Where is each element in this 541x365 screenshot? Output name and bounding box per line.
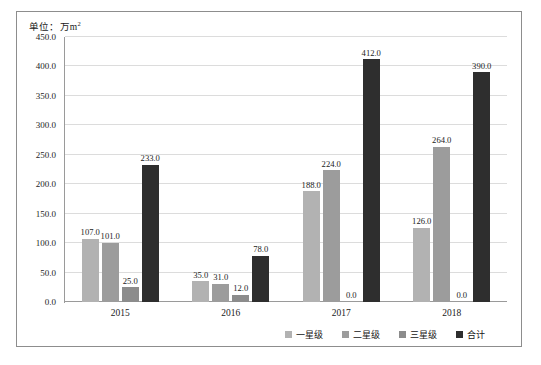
y-axis-tick-labels: 450.0400.0350.0300.0250.0200.0150.0100.0… xyxy=(17,37,61,302)
bar-value-label: 101.0 xyxy=(101,232,120,241)
y-axis-tick-label: 100.0 xyxy=(36,238,56,248)
y-axis-tick-label: 150.0 xyxy=(36,209,56,219)
bar-value-label: 107.0 xyxy=(81,228,100,237)
bar-slot: 0.0 xyxy=(343,37,360,302)
bar-slot: 390.0 xyxy=(473,37,490,302)
bar-value-label: 35.0 xyxy=(193,271,208,280)
bar[interactable] xyxy=(142,165,159,302)
x-axis-tick-label: 2018 xyxy=(397,308,508,318)
y-axis-tick-label: 300.0 xyxy=(36,120,56,130)
x-axis-tick-label: 2015 xyxy=(65,308,176,318)
bar[interactable] xyxy=(303,191,320,302)
bar-value-label: 224.0 xyxy=(322,160,341,169)
bar[interactable] xyxy=(433,147,450,302)
bar[interactable] xyxy=(212,284,229,302)
bar[interactable] xyxy=(252,256,269,302)
bar-value-label: 233.0 xyxy=(141,154,160,163)
bar-group: 126.0264.00.0390.0 xyxy=(397,37,508,302)
legend-label: 三星级 xyxy=(410,328,437,341)
x-axis-tick-label: 2017 xyxy=(286,308,397,318)
y-axis-tick-label: 450.0 xyxy=(36,32,56,42)
bar-slot: 12.0 xyxy=(232,37,249,302)
bar-slot: 188.0 xyxy=(303,37,320,302)
y-axis-tick-label: 250.0 xyxy=(36,150,56,160)
bar-value-label: 12.0 xyxy=(233,284,248,293)
bar[interactable] xyxy=(82,239,99,302)
legend-item[interactable]: 三星级 xyxy=(399,328,437,341)
x-axis-tick-label: 2016 xyxy=(176,308,287,318)
bar-slot: 264.0 xyxy=(433,37,450,302)
legend-label: 一星级 xyxy=(296,328,323,341)
bar[interactable] xyxy=(323,170,340,302)
bar-group-bars: 107.0101.025.0233.0 xyxy=(65,37,176,302)
bar-group-bars: 35.031.012.078.0 xyxy=(176,37,287,302)
y-axis-unit-text: 单位：万m xyxy=(29,22,77,32)
bar-group: 107.0101.025.0233.0 xyxy=(65,37,176,302)
bar-group-bars: 126.0264.00.0390.0 xyxy=(397,37,508,302)
bar-value-label: 264.0 xyxy=(432,136,451,145)
bar[interactable] xyxy=(232,295,249,302)
bar-slot: 31.0 xyxy=(212,37,229,302)
y-axis-tick-label: 200.0 xyxy=(36,179,56,189)
bar[interactable] xyxy=(102,243,119,302)
chart-legend: 一星级二星级三星级合计 xyxy=(17,328,507,341)
plot-area: 107.0101.025.0233.035.031.012.078.0188.0… xyxy=(65,37,507,302)
bar-value-label: 78.0 xyxy=(253,245,268,254)
legend-swatch-icon xyxy=(399,331,406,338)
bar-slot: 233.0 xyxy=(142,37,159,302)
y-axis-tick-label: 400.0 xyxy=(36,61,56,71)
bar[interactable] xyxy=(192,281,209,302)
bar-value-label: 25.0 xyxy=(123,277,138,286)
legend-item[interactable]: 合计 xyxy=(456,328,485,341)
bar-value-label: 126.0 xyxy=(412,217,431,226)
y-axis-unit-label: 单位：万m2 xyxy=(29,19,81,33)
bar-value-label: 390.0 xyxy=(472,62,491,71)
bar-slot: 25.0 xyxy=(122,37,139,302)
bar-value-label: 188.0 xyxy=(302,181,321,190)
y-axis-tick-label: 350.0 xyxy=(36,91,56,101)
bar[interactable] xyxy=(413,228,430,302)
bar-value-label: 412.0 xyxy=(362,49,381,58)
bar-slot: 101.0 xyxy=(102,37,119,302)
bar-slot: 78.0 xyxy=(252,37,269,302)
bar-slot: 224.0 xyxy=(323,37,340,302)
y-axis-tick-label: 0.0 xyxy=(45,297,56,307)
bar-value-label: 0.0 xyxy=(346,291,357,300)
bar-value-label: 0.0 xyxy=(456,291,467,300)
legend-label: 二星级 xyxy=(353,328,380,341)
bar-groups: 107.0101.025.0233.035.031.012.078.0188.0… xyxy=(65,37,507,302)
bar-slot: 126.0 xyxy=(413,37,430,302)
bar-value-label: 31.0 xyxy=(213,273,228,282)
chart-figure: 单位：万m2 450.0400.0350.0300.0250.0200.0150… xyxy=(16,11,522,347)
bar-group: 35.031.012.078.0 xyxy=(176,37,287,302)
legend-item[interactable]: 二星级 xyxy=(342,328,380,341)
bar[interactable] xyxy=(122,287,139,302)
legend-swatch-icon xyxy=(342,331,349,338)
bar-slot: 412.0 xyxy=(363,37,380,302)
bar[interactable] xyxy=(363,59,380,302)
legend-label: 合计 xyxy=(467,328,485,341)
legend-swatch-icon xyxy=(456,331,463,338)
y-axis-unit-superscript: 2 xyxy=(77,20,80,27)
bar[interactable] xyxy=(473,72,490,302)
bar-group-bars: 188.0224.00.0412.0 xyxy=(286,37,397,302)
bar-slot: 107.0 xyxy=(82,37,99,302)
bar-group: 188.0224.00.0412.0 xyxy=(286,37,397,302)
x-axis-tick-labels: 2015201620172018 xyxy=(65,308,507,318)
y-axis-tick-label: 50.0 xyxy=(40,268,56,278)
bar-slot: 35.0 xyxy=(192,37,209,302)
bar-slot: 0.0 xyxy=(453,37,470,302)
legend-swatch-icon xyxy=(285,331,292,338)
legend-item[interactable]: 一星级 xyxy=(285,328,323,341)
